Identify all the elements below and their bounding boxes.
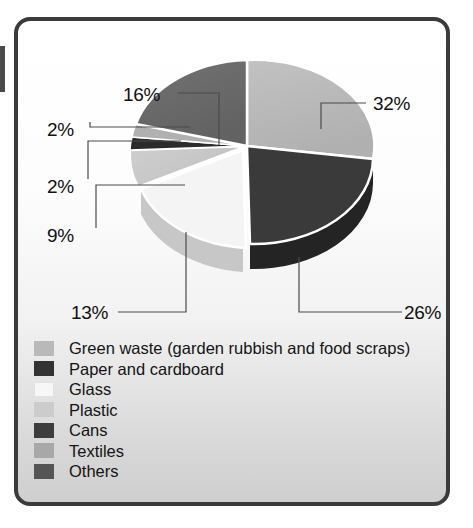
legend-swatch-green-waste <box>34 341 54 356</box>
page-root: 32% 26% 13% 9% 2% 2% 16% Green waste (ga… <box>0 0 473 528</box>
legend-swatch-textiles <box>34 443 54 458</box>
legend-item-plastic[interactable]: Plastic <box>34 400 434 421</box>
leader-line-26 <box>299 257 402 312</box>
pie-label-green-waste: 32% <box>373 93 410 115</box>
pie-label-paper-cardboard: 26% <box>404 302 441 324</box>
legend-label-plastic: Plastic <box>69 402 118 419</box>
legend-swatch-paper-cardboard <box>34 361 54 376</box>
legend-swatch-plastic <box>34 402 54 417</box>
legend-label-textiles: Textiles <box>69 443 124 460</box>
legend-item-paper-cardboard[interactable]: Paper and cardboard <box>34 359 434 380</box>
legend-item-textiles[interactable]: Textiles <box>34 441 434 462</box>
pie-label-glass: 13% <box>71 302 108 324</box>
pie-chart-graphic <box>18 21 446 326</box>
legend-label-others: Others <box>69 463 119 480</box>
legend-item-glass[interactable]: Glass <box>34 379 434 400</box>
pie-chart-figure: 32% 26% 13% 9% 2% 2% 16% <box>18 21 446 326</box>
slice-green-waste[interactable] <box>247 60 374 159</box>
legend-swatch-glass <box>34 382 54 397</box>
legend-label-green-waste: Green waste (garden rubbish and food scr… <box>69 340 410 357</box>
legend-swatch-cans <box>34 423 54 438</box>
legend-swatch-others <box>34 464 54 479</box>
pie-label-others: 16% <box>123 84 160 106</box>
pie-label-cans: 2% <box>47 176 74 198</box>
chart-legend: Green waste (garden rubbish and food scr… <box>34 338 434 482</box>
legend-label-glass: Glass <box>69 381 111 398</box>
legend-item-green-waste[interactable]: Green waste (garden rubbish and food scr… <box>34 338 434 359</box>
pie-label-plastic: 9% <box>47 225 74 247</box>
legend-item-cans[interactable]: Cans <box>34 420 434 441</box>
legend-item-others[interactable]: Others <box>34 461 434 482</box>
chart-frame: 32% 26% 13% 9% 2% 2% 16% Green waste (ga… <box>14 17 450 506</box>
page-edge-marker <box>0 46 5 92</box>
pie-top-faces <box>130 60 375 248</box>
pie-label-textiles: 2% <box>47 119 74 141</box>
legend-label-paper-cardboard: Paper and cardboard <box>69 361 224 378</box>
legend-label-cans: Cans <box>69 422 108 439</box>
